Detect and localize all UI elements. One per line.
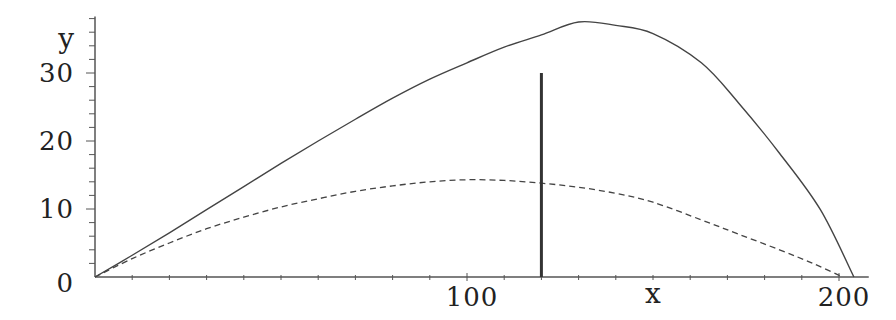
y-tick-label-0: 0	[56, 268, 74, 298]
x-axis-title: x	[645, 277, 661, 310]
tick-labels: 0 10 20 30 100 200 x y	[39, 22, 870, 312]
solid-curve	[95, 22, 854, 277]
x-tick-label-100: 100	[446, 282, 499, 312]
axes	[86, 17, 869, 281]
dashed-curve	[95, 180, 843, 277]
y-tick-label-30: 30	[39, 58, 74, 88]
y-axis-ticks	[86, 19, 95, 264]
x-tick-label-200: 200	[818, 282, 871, 312]
y-tick-label-10: 10	[39, 194, 74, 224]
chart: 0 10 20 30 100 200 x y	[0, 0, 896, 320]
plot-series	[95, 22, 854, 277]
y-tick-label-20: 20	[39, 126, 74, 156]
y-axis-title: y	[57, 22, 74, 55]
